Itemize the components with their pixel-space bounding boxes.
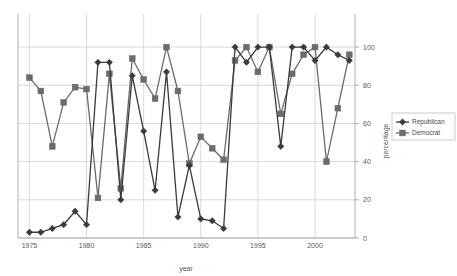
data-point-democrat (129, 56, 135, 62)
data-point-republican (26, 229, 32, 235)
data-point-democrat (335, 105, 341, 111)
legend-item-democrat[interactable]: Democrat (396, 129, 440, 136)
data-point-republican (49, 225, 55, 231)
data-point-republican (152, 187, 158, 193)
data-series-layer (26, 44, 352, 236)
data-point-democrat (346, 52, 352, 58)
data-point-democrat (118, 185, 124, 191)
y-axis-title: percentage (382, 123, 390, 158)
data-point-republican (118, 197, 124, 203)
y-tick-label: 60 (363, 120, 371, 127)
series-line-democrat (29, 47, 349, 198)
data-point-democrat (221, 157, 227, 163)
data-point-republican (175, 214, 181, 220)
y-tick-label: 100 (363, 44, 375, 51)
y-tick-label: 80 (363, 82, 371, 89)
chart-container: 197519801985199019952000 020406080100 Re… (0, 0, 457, 276)
series-republican (26, 44, 352, 236)
y-tick-label: 0 (363, 235, 367, 242)
x-tick-label: 1995 (250, 242, 266, 249)
data-point-democrat (324, 159, 330, 165)
data-point-democrat (95, 195, 101, 201)
data-point-republican (278, 143, 284, 149)
data-point-republican (95, 59, 101, 65)
data-point-democrat (164, 44, 170, 50)
data-point-democrat (301, 52, 307, 58)
data-point-democrat (175, 88, 181, 94)
y-tick-label: 40 (363, 158, 371, 165)
data-point-democrat (38, 88, 44, 94)
data-point-democrat (152, 96, 158, 102)
x-tick-label: 1980 (79, 242, 95, 249)
data-point-democrat (312, 44, 318, 50)
series-line-republican (29, 47, 349, 232)
series-democrat (27, 44, 353, 201)
data-point-republican (106, 59, 112, 65)
data-point-democrat (61, 100, 67, 106)
x-axis-title: year (179, 265, 193, 273)
data-point-republican (289, 44, 295, 50)
chart-legend[interactable]: RepublicanDemocrat (392, 113, 455, 140)
legend-swatch-marker (400, 130, 406, 136)
data-point-democrat (255, 69, 261, 75)
data-point-democrat (49, 143, 55, 149)
data-point-republican (38, 229, 44, 235)
data-point-democrat (27, 75, 33, 81)
data-point-republican (163, 69, 169, 75)
data-point-democrat (72, 84, 78, 90)
data-point-democrat (106, 71, 112, 77)
data-point-democrat (244, 44, 250, 50)
y-tick-label: 20 (363, 196, 371, 203)
data-point-democrat (289, 71, 295, 77)
x-axis-tick-labels: 197519801985199019952000 (22, 242, 323, 249)
x-tick-label: 1975 (22, 242, 38, 249)
data-point-democrat (209, 145, 215, 151)
data-point-democrat (278, 111, 284, 117)
data-point-democrat (198, 134, 204, 140)
data-point-democrat (141, 77, 147, 83)
x-tick-label: 2000 (307, 242, 323, 249)
data-point-republican (198, 216, 204, 222)
data-point-democrat (232, 58, 238, 64)
data-point-republican (140, 128, 146, 134)
y-axis-tick-labels: 020406080100 (355, 44, 375, 242)
x-tick-label: 1985 (136, 242, 152, 249)
legend-item-label: Republican (412, 118, 445, 126)
legend-item-label: Democrat (412, 129, 440, 136)
x-tick-label: 1990 (193, 242, 209, 249)
data-point-democrat (84, 86, 90, 92)
line-chart: 197519801985199019952000 020406080100 Re… (0, 0, 457, 276)
